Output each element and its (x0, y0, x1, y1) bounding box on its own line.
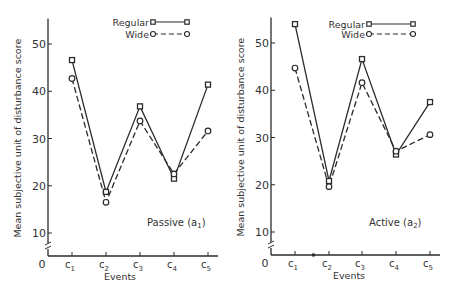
chart-panel-1: 10203040500c1c2c3c4c5EventsMean subjecti… (12, 17, 218, 283)
circle-marker-icon (137, 118, 143, 124)
circle-marker-icon (393, 148, 399, 154)
panel-label: Passive (a1) (147, 217, 206, 230)
x-tick-label: c5 (423, 258, 433, 272)
y-axis-title: Mean subjective unit of disturbance scor… (12, 39, 23, 238)
axis-break-icon (268, 241, 274, 248)
square-marker-icon (293, 22, 298, 27)
y-tick-label: 30 (255, 132, 269, 145)
y-tick-label: 10 (255, 226, 269, 239)
circle-marker-icon (185, 32, 190, 37)
y-tick-label: 30 (32, 133, 46, 146)
square-marker-icon (104, 189, 109, 194)
square-marker-icon (138, 104, 143, 109)
circle-marker-icon (171, 171, 177, 177)
series-line-regular (72, 60, 208, 192)
y-tick-label: 20 (255, 179, 269, 192)
square-marker-icon (151, 20, 155, 24)
circle-marker-icon (205, 128, 211, 134)
square-marker-icon (327, 178, 332, 183)
y-tick-label: 50 (255, 37, 269, 50)
y-tick-label: 20 (32, 180, 46, 193)
y-tick-label: 10 (32, 227, 46, 240)
y-tick-label: 50 (32, 38, 46, 51)
square-marker-icon (360, 57, 365, 62)
circle-marker-icon (103, 199, 109, 205)
legend-label-regular: Regular (113, 17, 150, 28)
circle-marker-icon (359, 80, 365, 86)
y-tick-label: 40 (32, 85, 46, 98)
axis-break-icon (45, 242, 51, 249)
square-marker-icon (367, 22, 371, 26)
x-tick-label: c1 (65, 259, 75, 273)
origin-label: 0 (39, 258, 46, 271)
circle-marker-icon (367, 32, 372, 37)
circle-marker-icon (151, 32, 156, 37)
x-tick-label: c1 (288, 258, 298, 272)
square-marker-icon (70, 58, 75, 63)
series-line-regular (295, 24, 430, 181)
panel-label: Active (a2) (369, 217, 422, 230)
square-marker-icon (428, 100, 433, 105)
x-tick-label: c4 (167, 259, 178, 273)
x-tick-label: c2 (322, 258, 332, 272)
square-marker-icon (206, 82, 211, 87)
circle-marker-icon (69, 76, 75, 82)
circle-marker-icon (411, 32, 416, 37)
circle-marker-icon (326, 184, 332, 190)
x-tick-label: c4 (389, 258, 400, 272)
square-marker-icon (411, 22, 415, 26)
legend-label-wide: Wide (125, 29, 149, 40)
y-tick-label: 40 (255, 84, 269, 97)
circle-marker-icon (292, 65, 298, 71)
chart-panel-2: 10203040500c1c2c3c4c5EventsMean subjecti… (235, 17, 440, 281)
origin-label: 0 (262, 257, 269, 270)
y-axis-title: Mean subjective unit of disturbance scor… (235, 38, 246, 237)
legend: RegularWide (329, 19, 416, 40)
chart-canvas: 10203040500c1c2c3c4c5EventsMean subjecti… (0, 0, 461, 295)
x-tick-label: c5 (201, 259, 211, 273)
axis-dot-mark (312, 254, 315, 257)
legend-label-wide: Wide (341, 29, 365, 40)
x-axis-title: Events (333, 270, 365, 281)
legend: RegularWide (113, 17, 190, 40)
circle-marker-icon (427, 132, 433, 138)
x-axis-title: Events (104, 271, 136, 282)
square-marker-icon (185, 20, 189, 24)
